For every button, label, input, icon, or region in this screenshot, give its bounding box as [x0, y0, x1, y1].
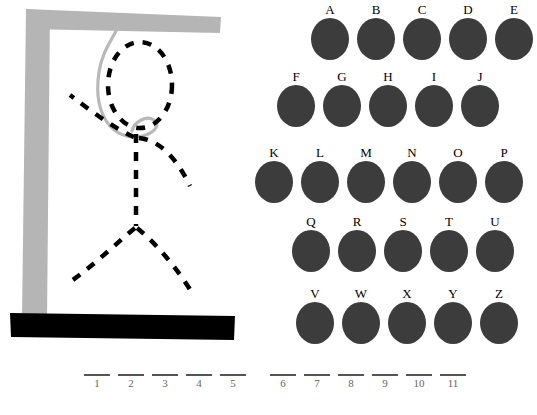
letter-key-V[interactable]: V: [296, 287, 334, 344]
letter-disc-P[interactable]: [485, 161, 523, 203]
letter-disc-V[interactable]: [296, 302, 334, 344]
figure-left-arm: [70, 95, 134, 137]
letter-key-U[interactable]: U: [476, 215, 514, 272]
blank-slot-7[interactable]: 7: [302, 374, 332, 390]
blank-slot-10[interactable]: 10: [404, 374, 434, 390]
letter-key-P[interactable]: P: [485, 146, 523, 203]
letter-key-B[interactable]: B: [357, 3, 395, 60]
letter-disc-I[interactable]: [415, 85, 453, 127]
blank-number-9: 9: [382, 377, 388, 390]
letter-disc-B[interactable]: [357, 18, 395, 60]
word-blanks-area: 1 2 3 4 5 6: [0, 374, 514, 415]
letter-key-F[interactable]: F: [277, 70, 315, 127]
blank-slot-2[interactable]: 2: [116, 374, 146, 390]
letter-key-R[interactable]: R: [338, 215, 376, 272]
letter-label-Z: Z: [495, 287, 503, 302]
letter-key-S[interactable]: S: [384, 215, 422, 272]
letter-label-R: R: [353, 215, 362, 230]
letter-disc-T[interactable]: [430, 230, 468, 272]
letter-disc-F[interactable]: [277, 85, 315, 127]
blank-number-7: 7: [314, 377, 320, 390]
letter-disc-W[interactable]: [342, 302, 380, 344]
blank-number-5: 5: [230, 377, 236, 390]
letter-key-Q[interactable]: Q: [292, 215, 330, 272]
blank-number-4: 4: [196, 377, 202, 390]
letter-key-T[interactable]: T: [430, 215, 468, 272]
letter-key-K[interactable]: K: [255, 146, 293, 203]
blank-number-1: 1: [94, 377, 100, 390]
letter-key-E[interactable]: E: [495, 3, 533, 60]
letter-label-X: X: [402, 287, 411, 302]
letter-label-U: U: [490, 215, 499, 230]
letter-key-D[interactable]: D: [449, 3, 487, 60]
letter-disc-D[interactable]: [449, 18, 487, 60]
letter-label-D: D: [463, 3, 472, 18]
blank-number-3: 3: [162, 377, 168, 390]
letter-disc-L[interactable]: [301, 161, 339, 203]
blank-slot-6[interactable]: 6: [268, 374, 298, 390]
gallows-post: [22, 9, 50, 318]
letter-disc-A[interactable]: [311, 18, 349, 60]
letter-key-A[interactable]: A: [311, 3, 349, 60]
letter-label-V: V: [310, 287, 319, 302]
letter-disc-C[interactable]: [403, 18, 441, 60]
letter-disc-K[interactable]: [255, 161, 293, 203]
letter-key-H[interactable]: H: [369, 70, 407, 127]
letter-label-K: K: [269, 146, 278, 161]
letter-key-L[interactable]: L: [301, 146, 339, 203]
letter-key-W[interactable]: W: [342, 287, 380, 344]
letter-disc-Y[interactable]: [434, 302, 472, 344]
blank-number-8: 8: [348, 377, 354, 390]
letter-label-P: P: [500, 146, 507, 161]
gallows-base: [10, 313, 235, 340]
blank-number-6: 6: [280, 377, 286, 390]
blank-slot-8[interactable]: 8: [336, 374, 366, 390]
letter-label-H: H: [383, 70, 392, 85]
letter-disc-R[interactable]: [338, 230, 376, 272]
blank-line-2: [118, 374, 144, 376]
letter-disc-N[interactable]: [393, 161, 431, 203]
blank-line-4: [186, 374, 212, 376]
letter-row-2: F G H I J: [273, 70, 503, 127]
letter-key-Z[interactable]: Z: [480, 287, 518, 344]
letter-label-E: E: [510, 3, 518, 18]
blank-line-6: [270, 374, 296, 376]
letter-disc-S[interactable]: [384, 230, 422, 272]
letter-label-J: J: [477, 70, 482, 85]
letter-key-J[interactable]: J: [461, 70, 499, 127]
letter-label-F: F: [292, 70, 299, 85]
letter-key-X[interactable]: X: [388, 287, 426, 344]
letter-disc-E[interactable]: [495, 18, 533, 60]
letter-key-O[interactable]: O: [439, 146, 477, 203]
blank-slot-3[interactable]: 3: [150, 374, 180, 390]
letter-label-S: S: [399, 215, 406, 230]
blank-slot-1[interactable]: 1: [82, 374, 112, 390]
blank-slot-11[interactable]: 11: [438, 374, 468, 390]
letter-key-G[interactable]: G: [323, 70, 361, 127]
letter-disc-M[interactable]: [347, 161, 385, 203]
letter-disc-H[interactable]: [369, 85, 407, 127]
letter-disc-G[interactable]: [323, 85, 361, 127]
blank-slot-4[interactable]: 4: [184, 374, 214, 390]
letter-disc-X[interactable]: [388, 302, 426, 344]
blank-slot-9[interactable]: 9: [370, 374, 400, 390]
word-2: 6 7 8 9 10 11: [268, 374, 472, 390]
letter-key-I[interactable]: I: [415, 70, 453, 127]
letter-disc-J[interactable]: [461, 85, 499, 127]
letter-key-C[interactable]: C: [403, 3, 441, 60]
letter-disc-Z[interactable]: [480, 302, 518, 344]
letter-row-4: Q R S T U: [288, 215, 518, 272]
letter-label-L: L: [316, 146, 324, 161]
letter-label-W: W: [355, 287, 367, 302]
letter-key-Y[interactable]: Y: [434, 287, 472, 344]
letter-disc-U[interactable]: [476, 230, 514, 272]
blank-line-8: [338, 374, 364, 376]
letter-disc-O[interactable]: [439, 161, 477, 203]
letter-key-M[interactable]: M: [347, 146, 385, 203]
blank-line-3: [152, 374, 178, 376]
letter-disc-Q[interactable]: [292, 230, 330, 272]
letter-key-N[interactable]: N: [393, 146, 431, 203]
blank-slot-5[interactable]: 5: [218, 374, 248, 390]
figure-right-leg: [137, 228, 194, 296]
letter-label-Q: Q: [306, 215, 315, 230]
